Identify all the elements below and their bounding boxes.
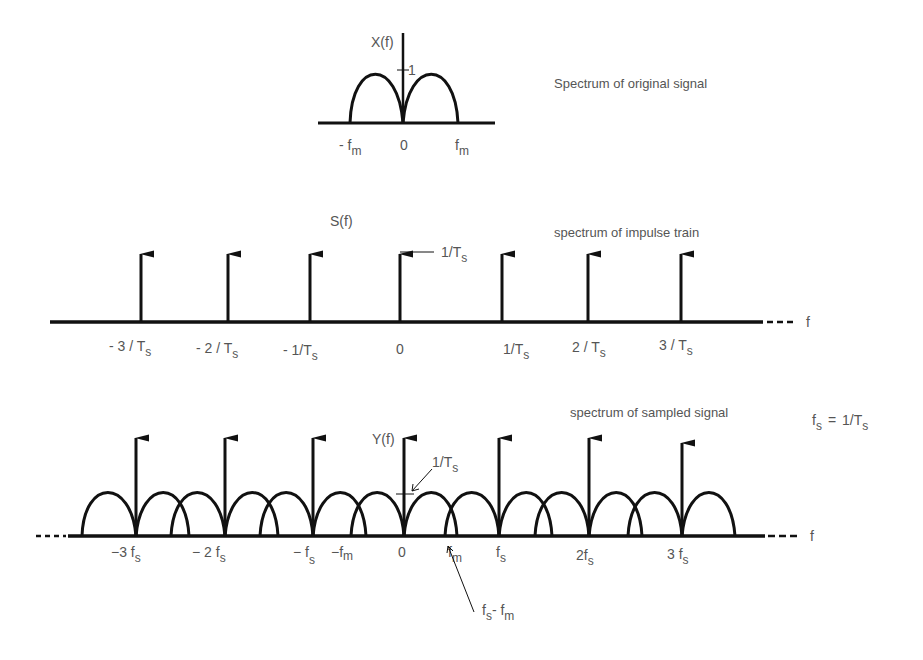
impulses (136, 438, 682, 536)
height-label: 1/Ts (441, 244, 467, 265)
lobe-right (403, 74, 458, 123)
lobe-left (350, 74, 403, 123)
impulses (141, 254, 681, 322)
peak-tick-label: 1 (408, 62, 416, 78)
annotation-fs-minus-fm: fs- fm (482, 602, 514, 623)
x-label-fm: fm (455, 137, 469, 158)
x-label: 1/Ts (503, 341, 529, 362)
y-axis-label: S(f) (330, 213, 353, 229)
x-label: - 1/Ts (283, 342, 318, 363)
spectral-replicas (82, 493, 735, 537)
axis-end-label: f (810, 528, 814, 544)
axis-end-label: f (806, 314, 810, 330)
sampling-spectrum-diagram: X(f) 1 - fm 0 fm Spectrum of original si… (0, 0, 923, 660)
x-label-neg-fm: - fm (339, 137, 361, 158)
height-arrow (412, 469, 432, 491)
x-label: fs (496, 544, 506, 565)
x-label-zero: 0 (400, 137, 408, 153)
x-label: 2 / Ts (572, 339, 606, 360)
caption-sampled: spectrum of sampled signal (570, 405, 728, 420)
original-spectrum-panel: X(f) 1 - fm 0 fm Spectrum of original si… (318, 33, 707, 158)
sampled-spectrum-panel: f 1/Ts (36, 405, 814, 623)
x-label: 0 (396, 341, 404, 357)
caption-impulse: spectrum of impulse train (554, 225, 699, 240)
height-label: 1/Ts (432, 454, 458, 475)
x-label: − fs (293, 544, 315, 567)
x-label: 3 fs (667, 546, 689, 567)
y-axis-label: Y(f) (372, 431, 395, 447)
x-label: −3 fs (111, 544, 141, 565)
x-label: − 2 fs (192, 544, 226, 565)
caption-original: Spectrum of original signal (554, 76, 707, 91)
x-label: fm (448, 544, 462, 565)
sampling-relation: fs=1/Ts (812, 412, 868, 433)
x-label: 2fs (576, 547, 594, 568)
y-axis-label: X(f) (371, 34, 394, 50)
x-label: - 2 / Ts (196, 340, 238, 361)
x-label: −fm (331, 544, 353, 563)
impulse-train-panel: f 1/Ts S(f) spectrum of impulse train - … (50, 213, 810, 363)
x-label: - 3 / Ts (109, 338, 151, 359)
x-label: 0 (398, 544, 406, 560)
x-label: 3 / Ts (659, 337, 693, 358)
